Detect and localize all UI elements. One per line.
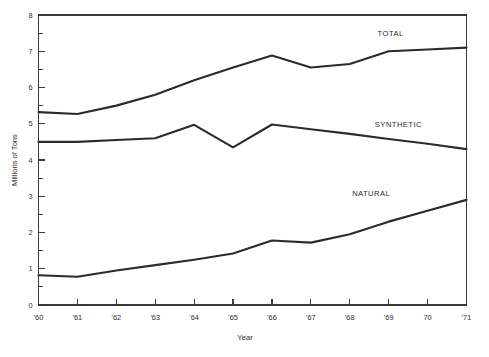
series-label-total: TOTAL — [378, 29, 404, 38]
x-tick-label: '61 — [73, 313, 83, 322]
x-tick-label: '66 — [267, 313, 277, 322]
series-label-synthetic: SYNTHETIC — [375, 120, 422, 129]
x-tick-label: '63 — [150, 313, 160, 322]
x-tick-label: '64 — [189, 313, 199, 322]
x-tick-label: '69 — [384, 313, 394, 322]
y-tick-label: 3 — [28, 192, 32, 201]
y-tick-label: 2 — [28, 228, 32, 237]
series-annotations-group: TOTALSYNTHETICNATURAL — [352, 29, 422, 198]
x-tick-label: '65 — [228, 313, 238, 322]
y-tick-label: 6 — [28, 83, 32, 92]
x-axis-title: Year — [237, 333, 253, 342]
y-axis-title: Millions of Tons — [10, 134, 19, 186]
x-axis-tick-labels: '60'61'62'63'64'65'66'67'68'6970'71 — [34, 313, 472, 322]
y-tick-label: 4 — [28, 156, 32, 165]
series-label-natural: NATURAL — [352, 189, 390, 198]
y-tick-label: 8 — [28, 11, 32, 20]
y-axis-tick-labels: 012345678 — [28, 11, 32, 310]
x-axis-ticks — [39, 299, 467, 306]
series-line-total — [39, 48, 467, 114]
plot-area-border — [39, 15, 467, 305]
y-tick-label: 7 — [28, 47, 32, 56]
x-tick-label: '68 — [345, 313, 355, 322]
y-tick-label: 1 — [28, 264, 32, 273]
y-axis-ticks — [39, 15, 46, 305]
x-tick-label: '71 — [462, 313, 472, 322]
series-line-natural — [39, 200, 467, 277]
chart-container: 012345678 '60'61'62'63'64'65'66'67'68'69… — [0, 0, 489, 357]
x-tick-label: '67 — [306, 313, 316, 322]
x-tick-label: 70 — [423, 313, 431, 322]
x-tick-label: '60 — [34, 313, 44, 322]
x-tick-label: '62 — [111, 313, 121, 322]
y-tick-label: 5 — [28, 119, 32, 128]
y-tick-label: 0 — [28, 301, 32, 310]
data-series-group — [39, 48, 467, 277]
plot-frame — [39, 15, 467, 305]
line-chart: 012345678 '60'61'62'63'64'65'66'67'68'69… — [0, 0, 489, 357]
